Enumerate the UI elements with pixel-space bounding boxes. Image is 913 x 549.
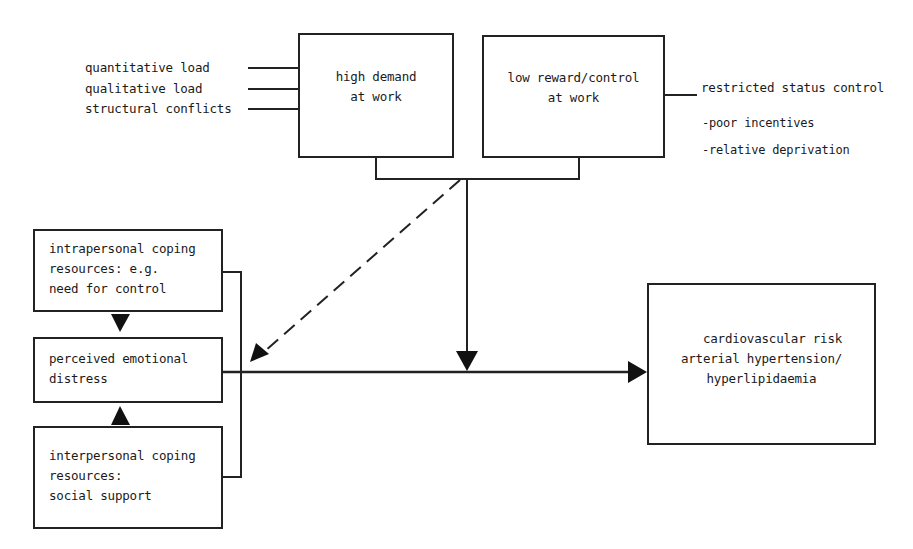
stress-bracket (376, 157, 579, 179)
high-demand-line-1: high demand (336, 67, 417, 87)
interpersonal-line-2: resources: (49, 466, 221, 486)
perceived-distress-box: perceived emotional distress (33, 337, 223, 403)
high-demand-box: high demand at work (298, 33, 454, 158)
intrapersonal-coping-box: intrapersonal coping resources: e.g. nee… (33, 229, 223, 312)
arrowhead-right-icon (628, 361, 647, 383)
reward-output-restricted-status: restricted status control (701, 78, 884, 98)
perceived-distress-line-1: perceived emotional (49, 349, 221, 369)
low-reward-line-1: low reward/control (508, 68, 640, 88)
demand-input-quantitative: quantitative load (85, 58, 210, 78)
coping-bracket (222, 272, 241, 477)
demand-input-qualitative: qualitative load (85, 79, 202, 99)
outcome-line-3: hyperlipidaemia (707, 369, 817, 389)
outcome-line-2: arterial hypertension/ (681, 349, 842, 369)
interpersonal-line-1: interpersonal coping (49, 446, 221, 466)
cardiovascular-outcome-box: cardiovascular risk arterial hypertensio… (647, 283, 876, 445)
demand-input-structural: structural conflicts (85, 99, 232, 119)
intrapersonal-line-2: resources: e.g. (49, 259, 221, 279)
arrowhead-up-small-icon (111, 406, 130, 425)
reward-output-relative-deprivation: -relative deprivation (702, 140, 850, 160)
high-demand-line-2: at work (350, 87, 401, 107)
intrapersonal-line-3: need for control (49, 279, 221, 299)
interpersonal-coping-box: interpersonal coping resources: social s… (33, 426, 223, 529)
arrowhead-down-icon (456, 351, 478, 371)
low-reward-line-2: at work (548, 88, 599, 108)
low-reward-box: low reward/control at work (482, 35, 665, 158)
reward-output-poor-incentives: -poor incentives (702, 113, 814, 133)
stress-dashed-line (264, 180, 460, 352)
arrowhead-diagonal-icon (250, 343, 269, 362)
arrowhead-down-small-icon (111, 314, 130, 332)
outcome-line-1: cardiovascular risk (703, 329, 842, 349)
intrapersonal-line-1: intrapersonal coping (49, 239, 221, 259)
interpersonal-line-3: social support (49, 486, 221, 506)
perceived-distress-line-2: distress (49, 369, 221, 389)
